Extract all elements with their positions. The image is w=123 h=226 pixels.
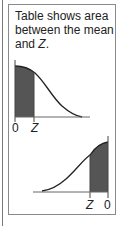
top-label-z: Z bbox=[31, 122, 38, 134]
bottom-label-zero: 0 bbox=[104, 199, 111, 211]
top-label-zero: 0 bbox=[12, 122, 19, 134]
normal-curve-diagrams bbox=[0, 0, 123, 226]
bottom-shaded-area bbox=[90, 142, 108, 192]
bottom-label-z: Z bbox=[86, 199, 93, 211]
bottom-diagram bbox=[33, 136, 108, 198]
top-diagram bbox=[15, 60, 90, 122]
top-shaded-area bbox=[15, 66, 34, 117]
